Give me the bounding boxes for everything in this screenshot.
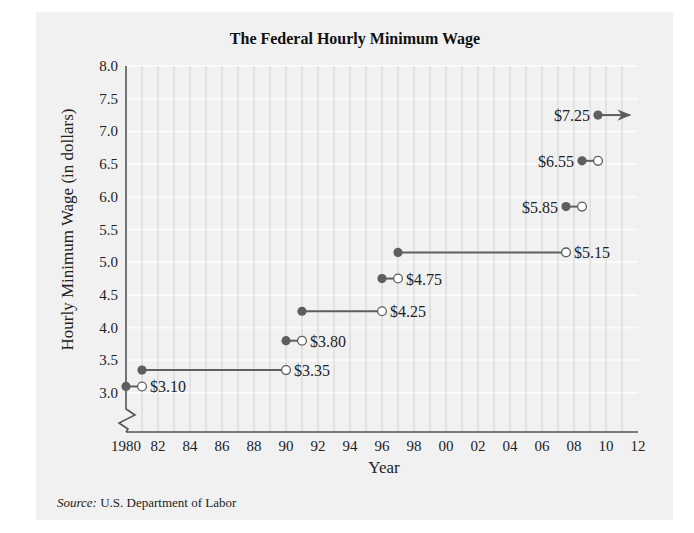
y-tick-label: 4.5 <box>99 287 118 303</box>
wage-value-label: $4.25 <box>390 303 426 320</box>
open-endpoint <box>578 202 587 211</box>
x-tick-label: 1980 <box>111 438 141 454</box>
chart-title: The Federal Hourly Minimum Wage <box>230 30 480 48</box>
x-tick-label: 92 <box>311 438 326 454</box>
y-tick-label: 6.0 <box>99 189 118 205</box>
wage-value-label: $6.55 <box>538 153 574 170</box>
filled-endpoint <box>121 382 130 391</box>
open-endpoint <box>378 307 387 316</box>
wage-value-label: $3.80 <box>310 333 346 350</box>
x-axis-label: Year <box>368 458 400 477</box>
y-tick-label: 6.5 <box>99 156 118 172</box>
x-tick-label: 06 <box>535 438 551 454</box>
filled-endpoint <box>593 110 602 119</box>
y-tick-label: 4.0 <box>99 320 118 336</box>
x-tick-label: 84 <box>183 438 199 454</box>
filled-endpoint <box>561 202 570 211</box>
filled-endpoint <box>297 307 306 316</box>
filled-endpoint <box>393 248 402 257</box>
filled-endpoint <box>137 366 146 375</box>
x-tick-label: 08 <box>567 438 582 454</box>
y-tick-label: 5.5 <box>99 222 118 238</box>
y-tick-label: 3.5 <box>99 352 118 368</box>
open-endpoint <box>298 336 307 345</box>
filled-endpoint <box>577 156 586 165</box>
x-tick-label: 88 <box>247 438 262 454</box>
y-tick-label: 5.0 <box>99 254 118 270</box>
wage-value-label: $7.25 <box>554 107 590 124</box>
filled-endpoint <box>281 336 290 345</box>
x-tick-label: 86 <box>215 438 231 454</box>
x-tick-label: 94 <box>343 438 359 454</box>
x-tick-label: 04 <box>503 438 519 454</box>
minimum-wage-chart: The Federal Hourly Minimum Wage3.03.54.0… <box>0 0 694 533</box>
filled-endpoint <box>377 274 386 283</box>
y-tick-label: 8.0 <box>99 58 118 74</box>
wage-value-label: $4.75 <box>406 271 442 288</box>
open-endpoint <box>282 366 291 375</box>
open-endpoint <box>138 382 147 391</box>
y-tick-label: 7.0 <box>99 123 118 139</box>
open-endpoint <box>562 248 571 257</box>
y-tick-label: 7.5 <box>99 91 118 107</box>
open-endpoint <box>594 156 603 165</box>
y-tick-label: 3.0 <box>99 385 118 401</box>
x-tick-label: 96 <box>375 438 391 454</box>
x-tick-label: 02 <box>471 438 486 454</box>
wage-value-label: $3.10 <box>150 378 186 395</box>
wage-value-label: $3.35 <box>294 362 330 379</box>
x-tick-label: 90 <box>279 438 294 454</box>
wage-value-label: $5.85 <box>522 199 558 216</box>
open-endpoint <box>394 274 403 283</box>
source-footnote: Source: U.S. Department of Labor <box>57 495 237 510</box>
x-tick-label: 12 <box>631 438 646 454</box>
x-tick-label: 82 <box>151 438 166 454</box>
y-axis-with-break <box>119 66 135 432</box>
source-text: U.S. Department of Labor <box>97 495 237 510</box>
x-tick-label: 98 <box>407 438 422 454</box>
x-tick-label: 10 <box>599 438 614 454</box>
x-tick-label: 00 <box>439 438 454 454</box>
wage-value-label: $5.15 <box>574 244 610 261</box>
source-prefix: Source: <box>57 495 97 510</box>
y-axis-label: Hourly Minimum Wage (in dollars) <box>58 109 77 351</box>
